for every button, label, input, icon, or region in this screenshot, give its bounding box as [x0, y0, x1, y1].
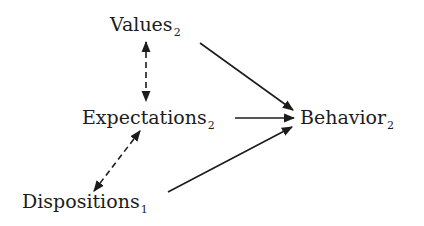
node-dispositions-subscript: 1: [141, 203, 148, 216]
edge-values-to-behavior: [200, 43, 293, 110]
node-behavior: Behavior2: [300, 108, 394, 127]
node-dispositions: Dispositions1: [22, 192, 148, 211]
path-diagram: Values2 Expectations2 Behavior2 Disposit…: [0, 0, 424, 226]
node-behavior-subscript: 2: [387, 119, 394, 132]
node-expectations: Expectations2: [82, 108, 215, 127]
node-values: Values2: [110, 15, 181, 34]
node-behavior-label: Behavior: [300, 106, 386, 128]
node-expectations-label: Expectations: [82, 106, 207, 128]
node-expectations-subscript: 2: [208, 119, 215, 132]
node-values-subscript: 2: [174, 26, 181, 39]
node-dispositions-label: Dispositions: [22, 190, 140, 212]
node-values-label: Values: [110, 13, 173, 35]
edge-expectations-dispositions-dashed: [94, 131, 140, 191]
edge-dispositions-to-behavior: [168, 127, 292, 192]
